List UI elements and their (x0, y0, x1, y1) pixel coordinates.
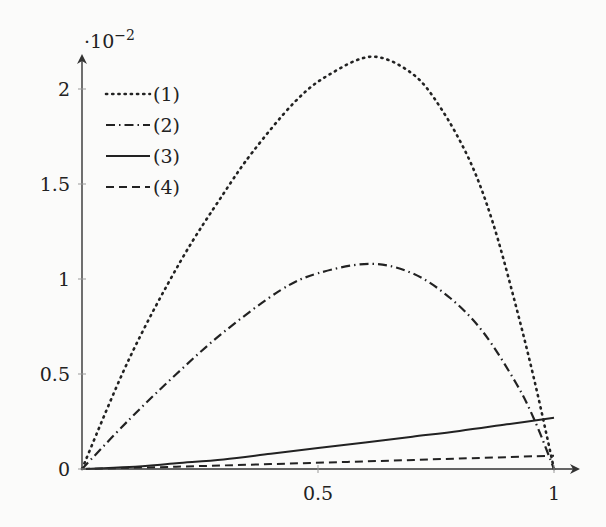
x-tick-label: 0.5 (303, 482, 333, 504)
y-tick-label: 2 (58, 78, 70, 100)
y-scale-exponent: −2 (114, 27, 135, 43)
y-scale-base: ·10 (84, 30, 114, 52)
x-tick-label: 1 (548, 482, 560, 504)
legend-label: (1) (153, 83, 180, 105)
legend: (1)(2)(3)(4) (106, 83, 180, 198)
y-tick-label: 1.5 (40, 173, 70, 195)
y-scale-label: ·10−2 (84, 27, 135, 52)
legend-label: (2) (153, 114, 180, 136)
legend-entry-2: (2) (106, 114, 180, 136)
y-tick-label: 0.5 (40, 363, 70, 385)
legend-entry-4: (4) (106, 176, 180, 198)
series-line-2 (82, 264, 554, 469)
y-tick-label: 1 (58, 268, 70, 290)
legend-label: (4) (153, 176, 180, 198)
line-chart: 0.5100.511.52 ·10−2 (1)(2)(3)(4) (0, 0, 606, 527)
legend-label: (3) (153, 145, 180, 167)
series-line-3 (82, 418, 554, 469)
legend-entry-1: (1) (106, 83, 180, 105)
legend-entry-3: (3) (106, 145, 180, 167)
axis-ticks: 0.5100.511.52 (40, 78, 560, 504)
y-tick-label: 0 (58, 458, 70, 480)
